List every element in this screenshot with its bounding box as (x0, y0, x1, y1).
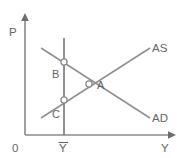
as-ad-diagram: P Y 0 Y AS AD A B C (0, 0, 189, 158)
point-c-label: C (52, 108, 60, 120)
origin-label: 0 (12, 142, 19, 154)
point-b-marker (61, 59, 67, 65)
output-axis-arrow-icon (168, 131, 176, 139)
curve-labels-group: AS AD (152, 42, 168, 124)
potential-output-tick: Y (59, 142, 69, 154)
price-axis-arrow-icon (21, 13, 29, 21)
diagram-canvas: P Y 0 Y AS AD A B C (0, 0, 189, 158)
output-axis-label: Y (161, 142, 169, 154)
price-axis-label: P (9, 26, 17, 38)
ad-curve-label: AD (152, 112, 168, 124)
point-markers-group (61, 59, 92, 103)
curves-group (41, 38, 150, 135)
point-c-marker (61, 97, 67, 103)
point-a-marker (86, 81, 92, 87)
point-a-label: A (97, 79, 105, 91)
point-b-label: B (52, 68, 60, 80)
potential-output-label: Y (59, 142, 67, 154)
as-curve-label: AS (152, 42, 168, 54)
